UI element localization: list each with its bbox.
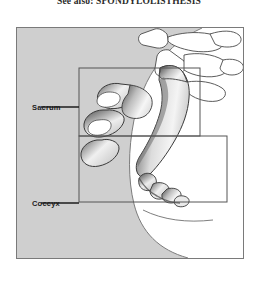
anatomy-illustration: [17, 28, 243, 258]
label-coccyx: Coccyx: [32, 199, 60, 208]
vertebra-l5-spinous: [220, 59, 243, 75]
figure-page: See also: SPONDYLOLISTHESIS: [0, 0, 258, 288]
label-sacrum: Sacrum: [32, 103, 61, 112]
anatomy-figure-frame: [16, 27, 244, 259]
coccyx-tip: [174, 196, 189, 207]
gluteal-fold-line: [143, 210, 213, 221]
vertebra-transverse-fragment: [186, 81, 225, 101]
see-also-caption: See also: SPONDYLOLISTHESIS: [0, 0, 258, 7]
